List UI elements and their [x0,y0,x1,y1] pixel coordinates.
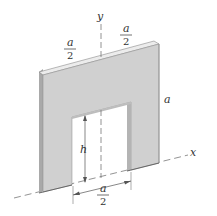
plate-left-edge [39,69,43,193]
top-left-2-denominator: 2 [67,50,73,61]
width-arrow-right-icon [124,181,131,185]
opening-right-inner-edge [127,102,131,171]
plate-diagram: y x a h a 2 a 2 a 2 [0,0,217,216]
bottom-a-numerator: a [100,182,107,195]
x-axis-label: x [190,146,197,159]
h-arrow-bottom-icon [83,177,87,183]
side-a-label: a [164,93,171,106]
top-left-a-numerator: a [67,36,74,49]
opening-h-label: h [80,143,87,156]
y-axis-label: y [96,10,104,23]
plate-svg: y x a h a 2 a 2 a 2 [0,0,217,216]
width-arrow-left-icon [73,192,80,196]
top-right-a-numerator: a [123,22,130,35]
top-right-2-denominator: 2 [123,36,129,47]
bottom-2-denominator: 2 [100,196,106,207]
